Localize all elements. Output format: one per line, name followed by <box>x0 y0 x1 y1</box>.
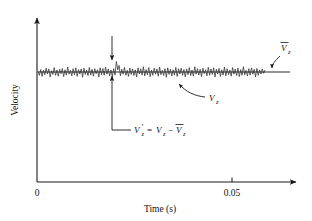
axes-group <box>37 18 296 182</box>
y-axis-label: Velocity <box>10 84 20 116</box>
x-origin-label: 0 <box>35 188 40 198</box>
instantaneous-label-pointer <box>179 84 205 97</box>
mean-velocity-label: V z <box>281 43 292 56</box>
mean-pointer-arrow <box>272 56 280 68</box>
instantaneous-velocity-symbol: V <box>209 93 216 103</box>
eq-rhs1-subscript: z <box>162 130 166 137</box>
mean-velocity-symbol: V <box>281 43 288 53</box>
mean-label-pointer <box>272 56 280 68</box>
eq-lhs-symbol: V <box>134 125 141 135</box>
eq-lhs-subscript: z <box>141 130 145 137</box>
instantaneous-velocity-label: V z <box>209 93 219 105</box>
mean-velocity-subscript: z <box>287 48 291 55</box>
fluctuation-leader-line <box>112 116 131 130</box>
x-axis-label: Time (s) <box>144 204 176 215</box>
eq-equals: = <box>147 125 152 135</box>
eq-minus: − <box>168 125 173 135</box>
instantaneous-velocity-subscript: z <box>215 98 219 105</box>
instantaneous-pointer-arrow <box>179 84 205 97</box>
fluctuation-definition: V ′ z = V z − V z <box>134 122 186 137</box>
x-tick-label-005: 0.05 <box>224 188 241 198</box>
eq-rhs2-subscript: z <box>182 130 186 137</box>
plot-canvas: Velocity Time (s) 0 0.05 V z V z V ′ z =… <box>0 0 312 221</box>
velocity-fluctuation-figure: Velocity Time (s) 0 0.05 V z V z V ′ z =… <box>0 0 312 221</box>
eq-rhs1-symbol: V <box>156 125 163 135</box>
instantaneous-velocity-trace <box>38 62 265 78</box>
eq-rhs2-symbol: V <box>176 125 183 135</box>
fluctuation-indicator <box>112 36 131 130</box>
